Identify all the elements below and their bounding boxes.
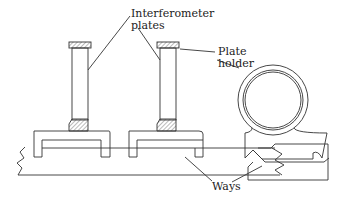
plate-holder	[238, 65, 329, 180]
diagram-canvas: Interferometer plates Plate holder Ways	[0, 0, 361, 203]
label-line: holder	[218, 58, 254, 70]
ways-base	[17, 147, 284, 175]
leader-interferometer-plate-left	[88, 16, 130, 70]
left-plate-assembly	[34, 42, 110, 157]
label-interferometer-plates: Interferometer plates	[131, 8, 214, 32]
middle-plate-assembly	[129, 42, 203, 157]
label-ways: Ways	[212, 181, 241, 193]
label-line: plates	[131, 20, 214, 32]
label-plate-holder: Plate holder	[218, 46, 254, 70]
leader-plate-holder	[180, 49, 215, 52]
leader-ways-left	[185, 157, 212, 181]
